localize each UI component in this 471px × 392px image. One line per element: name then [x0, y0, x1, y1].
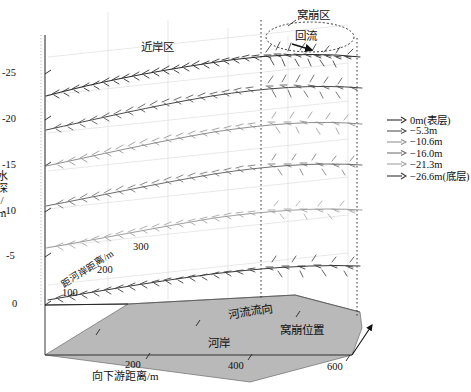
nearshore-zone-label: 近岸区	[141, 42, 174, 54]
figure-canvas: 0 -5 -10 -15 -20 -25 水深/m 200 400 600 向下…	[0, 0, 471, 392]
vector-series-0m	[46, 42, 360, 98]
x-axis-label: 向下游距离/m	[92, 371, 159, 382]
vector-series-10-6m	[46, 112, 362, 168]
backflow-label: 回流	[295, 31, 317, 43]
legend-item-26-6m: −26.6m(底层)	[386, 170, 471, 181]
legend-item-0m: 0m(表层)	[386, 114, 471, 125]
x-tick-400: 400	[228, 361, 244, 372]
vector-series-16-0m	[46, 154, 362, 208]
legend-item-5-3m: −5.3m	[386, 125, 471, 136]
y-tick-25: -25	[2, 68, 16, 79]
y-axis-label: 水深/m	[0, 170, 7, 220]
x-tick-600: 600	[327, 362, 343, 373]
legend-label-26-6m: −26.6m(底层)	[410, 168, 469, 183]
y-tick-0: 0	[12, 299, 17, 310]
vector-field-layers	[0, 0, 471, 392]
y-tick-20: -20	[2, 114, 16, 125]
river-bank-label: 河岸	[208, 338, 230, 350]
legend-arrow-21-3m	[386, 159, 408, 169]
legend-arrow-0m	[386, 115, 408, 125]
legend-item-16-0m: −16.0m	[386, 148, 471, 159]
y-tick-15: -15	[2, 160, 16, 171]
legend-label-10-6m: −10.6m	[410, 136, 442, 147]
x-tick-200: 200	[125, 360, 141, 371]
legend-item-10-6m: −10.6m	[386, 136, 471, 147]
legend-arrow-16-0m	[386, 148, 408, 158]
legend-label-16-0m: −16.0m	[410, 148, 442, 159]
collapse-position-label: 窝崩位置	[280, 325, 324, 337]
collapse-zone-label: 窝崩区	[297, 10, 330, 22]
legend-arrow-26-6m	[386, 171, 408, 181]
y-tick-5: -5	[6, 251, 15, 262]
legend-arrow-10-6m	[386, 137, 408, 147]
legend: 0m(表层) −5.3m −10.6m −16.0m	[386, 114, 471, 181]
legend-label-5-3m: −5.3m	[410, 125, 437, 136]
legend-arrow-5-3m	[386, 126, 408, 136]
vector-series-21-3m	[46, 201, 362, 250]
z-tick-300: 300	[133, 242, 149, 253]
vector-series-5-3m	[46, 75, 362, 132]
